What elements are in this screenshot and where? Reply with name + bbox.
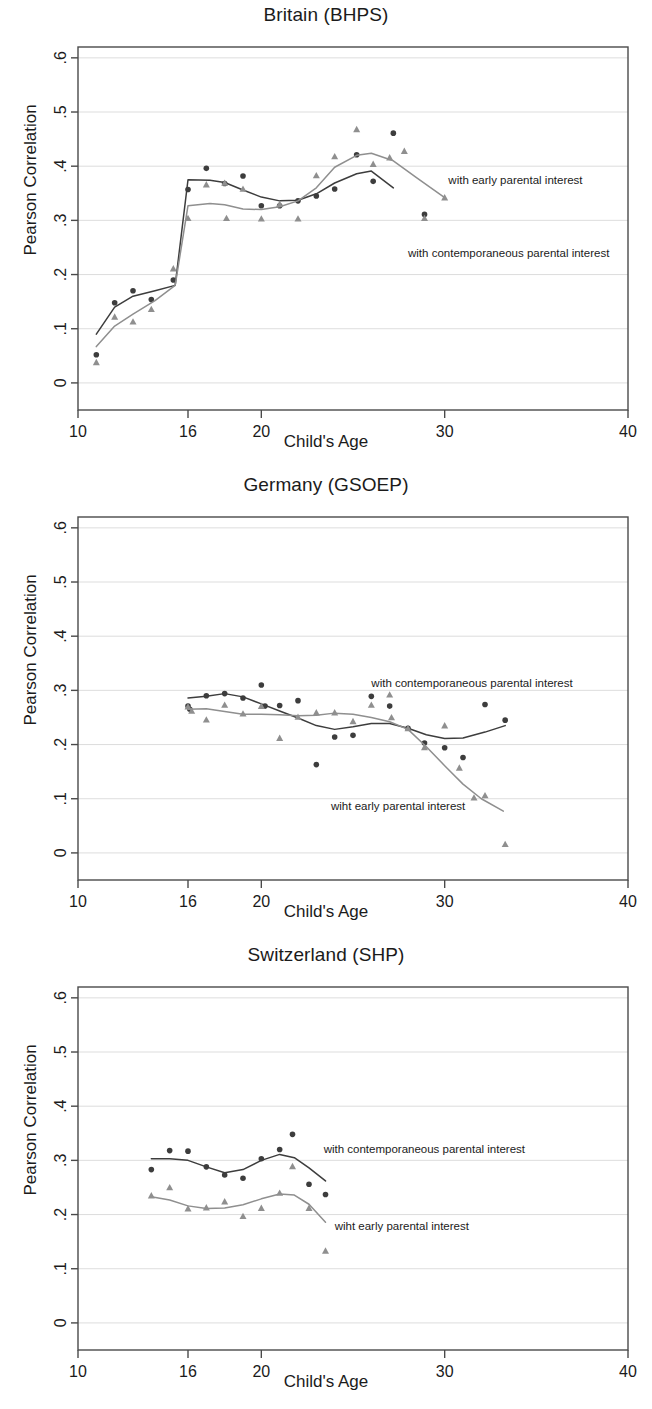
data-point-triangle	[401, 148, 408, 154]
data-point-triangle	[368, 702, 375, 708]
data-point-circle	[259, 1156, 265, 1162]
y-tick-label: .6	[52, 51, 69, 64]
data-point-triangle	[386, 691, 393, 697]
series-annotation-label: wiht early parental interest	[334, 1220, 470, 1232]
data-point-circle	[350, 733, 356, 739]
data-point-triangle	[502, 841, 509, 847]
data-point-circle	[112, 300, 118, 306]
y-tick-label: .3	[52, 214, 69, 227]
panel-britain: Britain (BHPS) Pearson Correlation 0.1.2…	[0, 0, 652, 470]
data-point-triangle	[130, 318, 137, 324]
data-point-circle	[185, 187, 191, 193]
y-tick-label: .1	[52, 322, 69, 335]
series-annotation-label: with early parental interest	[447, 174, 583, 186]
data-point-circle	[391, 130, 397, 136]
data-point-triangle	[331, 709, 338, 715]
data-point-triangle	[240, 1213, 247, 1219]
data-point-triangle	[276, 1189, 283, 1195]
data-point-circle	[222, 1172, 228, 1178]
y-tick-label: .2	[52, 1208, 69, 1221]
plot-area: 0.1.2.3.4.5.61016203040with contemporane…	[0, 940, 652, 1409]
data-point-triangle	[148, 306, 155, 312]
series-annotation-label: with contemporaneous parental interest	[323, 1143, 526, 1155]
data-point-triangle	[313, 172, 320, 178]
y-tick-label: .2	[52, 268, 69, 281]
data-point-circle	[94, 352, 100, 358]
y-tick-label: .1	[52, 792, 69, 805]
data-point-circle	[167, 1148, 173, 1154]
data-point-circle	[204, 693, 210, 699]
data-point-circle	[240, 695, 246, 701]
data-point-triangle	[221, 1198, 228, 1204]
data-point-circle	[323, 1192, 329, 1198]
y-tick-label: 0	[52, 848, 69, 857]
data-point-circle	[290, 1132, 296, 1138]
data-point-circle	[314, 762, 320, 768]
data-point-circle	[332, 734, 338, 740]
data-point-circle	[149, 1167, 155, 1173]
y-tick-label: .1	[52, 1262, 69, 1275]
data-point-circle	[277, 703, 283, 709]
series-annotation-label: wiht early parental interest	[330, 800, 466, 812]
data-point-triangle	[223, 215, 230, 221]
y-tick-label: .2	[52, 738, 69, 751]
data-point-circle	[387, 703, 393, 709]
y-tick-label: 0	[52, 378, 69, 387]
y-tick-label: 0	[52, 1318, 69, 1327]
plot-frame	[78, 987, 628, 1350]
data-point-triangle	[276, 735, 283, 741]
data-point-triangle	[350, 718, 357, 724]
data-point-circle	[259, 682, 265, 688]
data-point-triangle	[331, 153, 338, 159]
data-point-circle	[306, 1181, 312, 1187]
series-smooth-line	[188, 709, 503, 811]
data-point-circle	[185, 1148, 191, 1154]
data-point-triangle	[441, 722, 448, 728]
data-point-triangle	[313, 709, 320, 715]
y-tick-label: .4	[52, 629, 69, 642]
plot-area: 0.1.2.3.4.5.61016203040with contemporane…	[0, 470, 652, 940]
data-point-circle	[314, 193, 320, 199]
y-tick-label: .5	[52, 105, 69, 118]
data-point-circle	[442, 745, 448, 751]
data-point-triangle	[170, 265, 177, 271]
y-tick-label: .4	[52, 1099, 69, 1112]
data-point-circle	[222, 691, 228, 697]
data-point-circle	[295, 698, 301, 704]
data-point-triangle	[258, 1205, 265, 1211]
data-point-triangle	[93, 359, 100, 365]
data-point-triangle	[370, 161, 377, 167]
data-point-circle	[130, 288, 136, 294]
plot-frame	[78, 47, 628, 410]
data-point-circle	[460, 755, 466, 761]
data-point-triangle	[295, 215, 302, 221]
x-axis-label: Child's Age	[0, 902, 652, 922]
data-point-triangle	[276, 201, 283, 207]
series-smooth-line	[188, 694, 505, 739]
plot-frame	[78, 517, 628, 880]
y-tick-label: .5	[52, 1045, 69, 1058]
data-point-circle	[204, 166, 210, 172]
data-point-triangle	[111, 313, 118, 319]
panel-germany: Germany (GSOEP) Pearson Correlation 0.1.…	[0, 470, 652, 940]
data-point-triangle	[482, 792, 489, 798]
data-point-triangle	[289, 1163, 296, 1169]
plot-area: 0.1.2.3.4.5.61016203040with early parent…	[0, 0, 652, 470]
panel-switzerland: Switzerland (SHP) Pearson Correlation 0.…	[0, 940, 652, 1409]
figure-three-panel-correlation: Britain (BHPS) Pearson Correlation 0.1.2…	[0, 0, 652, 1409]
data-point-circle	[369, 694, 375, 700]
data-point-triangle	[456, 764, 463, 770]
y-tick-label: .6	[52, 521, 69, 534]
data-point-triangle	[203, 716, 210, 722]
y-tick-label: .4	[52, 159, 69, 172]
data-point-circle	[482, 702, 488, 708]
y-tick-label: .5	[52, 575, 69, 588]
data-point-triangle	[221, 702, 228, 708]
data-point-triangle	[203, 181, 210, 187]
data-point-circle	[277, 1147, 283, 1153]
series-smooth-line	[151, 1154, 325, 1181]
series-annotation-label: with contemporaneous parental interest	[407, 247, 610, 259]
data-point-triangle	[322, 1247, 329, 1253]
x-axis-label: Child's Age	[0, 432, 652, 452]
data-point-circle	[502, 717, 508, 723]
